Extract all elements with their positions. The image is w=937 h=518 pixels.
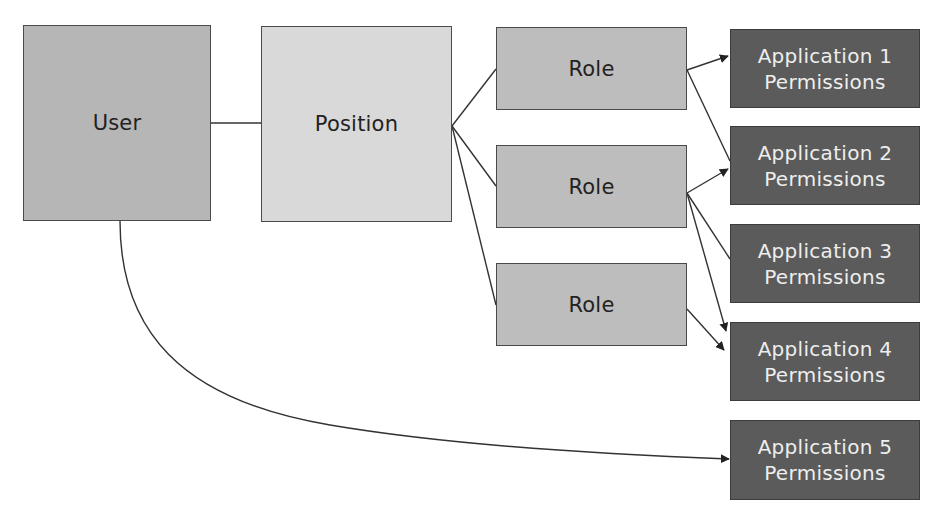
app-permissions-label: Permissions [764, 362, 886, 388]
role-node-2: Role [496, 145, 687, 228]
access-permissions-diagram: User Position Role Role Role Application… [0, 0, 937, 518]
edge-role-3-app-4 [687, 309, 724, 350]
edge-position-role-2 [452, 126, 496, 186]
application-2-permissions-node: Application 2 Permissions [730, 126, 920, 205]
edge-role-2-app-4 [687, 193, 726, 331]
app-name-label: Application 3 [758, 238, 893, 264]
position-node: Position [261, 26, 452, 222]
edge-position-role-3 [452, 126, 496, 305]
app-name-label: Application 5 [758, 434, 893, 460]
user-label: User [93, 111, 142, 135]
application-1-permissions-node: Application 1 Permissions [730, 29, 920, 108]
user-node: User [23, 25, 211, 221]
edge-role-2-app-3 [687, 193, 730, 259]
edge-role-2-app-2 [687, 169, 728, 193]
role-node-3: Role [496, 263, 687, 346]
app-name-label: Application 2 [758, 140, 893, 166]
application-5-permissions-node: Application 5 Permissions [730, 420, 920, 500]
role-label: Role [568, 57, 614, 81]
role-label: Role [568, 175, 614, 199]
edge-position-role-1 [452, 69, 496, 126]
app-name-label: Application 4 [758, 336, 893, 362]
position-label: Position [315, 112, 398, 136]
application-3-permissions-node: Application 3 Permissions [730, 224, 920, 303]
app-permissions-label: Permissions [764, 460, 886, 486]
application-4-permissions-node: Application 4 Permissions [730, 322, 920, 401]
edge-role-1-app-1 [687, 56, 728, 70]
role-node-1: Role [496, 27, 687, 110]
app-permissions-label: Permissions [764, 69, 886, 95]
app-name-label: Application 1 [758, 43, 893, 69]
edge-role-1-app-2 [687, 70, 730, 161]
app-permissions-label: Permissions [764, 264, 886, 290]
role-label: Role [568, 293, 614, 317]
app-permissions-label: Permissions [764, 166, 886, 192]
